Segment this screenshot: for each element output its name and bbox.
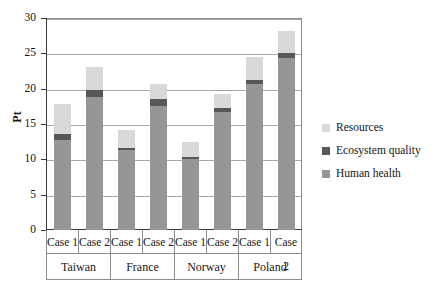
y-tick-mark [41,89,46,90]
case-label: Case 2 [270,230,302,254]
bar-taiwan-case-2 [86,67,103,230]
y-tick-label: 30 [12,12,36,23]
case-label: Case 1 [174,230,206,254]
legend-swatch-icon [322,170,330,178]
bar-segment-resources [246,57,263,80]
bar-segment-resources [86,67,103,90]
bar-segment-human-health [150,106,167,230]
bar-segment-human-health [86,97,103,230]
case-label: Case 1 [238,230,270,254]
y-tick-mark [41,195,46,196]
bar-segment-human-health [118,150,135,230]
bar-segment-human-health [278,58,295,230]
legend-item: Resources [322,118,440,137]
legend-swatch-icon [322,124,330,132]
bar-poland-case-2 [278,31,295,230]
chart-legend: ResourcesEcosystem qualityHuman health [322,118,440,187]
y-tick-mark [41,124,46,125]
bar-poland-case-1 [246,57,263,230]
bar-segment-ecosystem-quality [86,90,103,97]
stacked-bar-chart: Pt 051015202530 Case 1Case 2Case 1Case 2… [0,0,444,283]
bar-segment-ecosystem-quality [150,99,167,106]
gridline [47,54,301,55]
case-label: Case 2 [142,230,174,254]
y-tick-mark [41,159,46,160]
bar-taiwan-case-1 [54,104,71,230]
plot-area [46,18,302,230]
country-label-row: TaiwanFranceNorwayPoland [46,254,302,280]
legend-swatch-icon [322,147,330,155]
bar-segment-human-health [246,84,263,230]
legend-label: Resources [336,121,383,134]
y-tick-mark [41,18,46,19]
y-tick-label: 0 [12,224,36,235]
y-tick-mark [41,53,46,54]
bar-segment-resources [150,84,167,98]
case-label-row: Case 1Case 2Case 1Case 2Case 1Case 2Case… [46,230,302,254]
bar-segment-resources [214,94,231,108]
bar-france-case-1 [118,130,135,230]
y-axis-line [46,18,47,230]
bar-france-case-2 [150,84,167,230]
gridline [47,19,301,20]
legend-label: Ecosystem quality [336,144,421,157]
country-label-france: France [110,254,174,280]
bar-segment-human-health [54,140,71,230]
case-label: Case 1 [110,230,142,254]
y-tick-label: 25 [12,47,36,58]
bar-segment-resources [182,142,199,158]
bar-segment-human-health [214,112,231,230]
bar-segment-resources [118,130,135,148]
country-label-norway: Norway [174,254,238,280]
bar-norway-case-1 [182,142,199,230]
case-label: Case 2 [206,230,238,254]
country-label-poland: Poland [238,254,302,280]
case-label: Case 1 [46,230,78,254]
legend-item: Human health [322,164,440,183]
y-tick-label: 5 [12,189,36,200]
legend-label: Human health [336,167,401,180]
bar-segment-human-health [182,159,199,230]
y-tick-label: 10 [12,153,36,164]
country-label-taiwan: Taiwan [46,254,110,280]
bar-norway-case-2 [214,94,231,230]
bar-segment-resources [54,104,71,134]
y-tick-label: 15 [12,118,36,129]
legend-item: Ecosystem quality [322,141,440,160]
bar-segment-resources [278,31,295,53]
y-tick-label: 20 [12,83,36,94]
case-label: Case 2 [78,230,110,254]
